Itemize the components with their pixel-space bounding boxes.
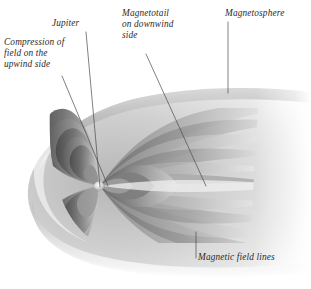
label-magnetosphere: Magnetosphere <box>225 8 284 19</box>
label-compression-upwind: Compression of field on the upwind side <box>4 37 64 71</box>
label-magnetotail: Magnetotail on downwind side <box>122 8 174 42</box>
jupiter-planet <box>94 182 104 191</box>
label-jupiter: Jupiter <box>52 18 79 29</box>
label-magnetic-field-lines: Magnetic field lines <box>198 252 275 263</box>
magnetosphere-figure: Compression of field on the upwind side … <box>0 0 311 289</box>
